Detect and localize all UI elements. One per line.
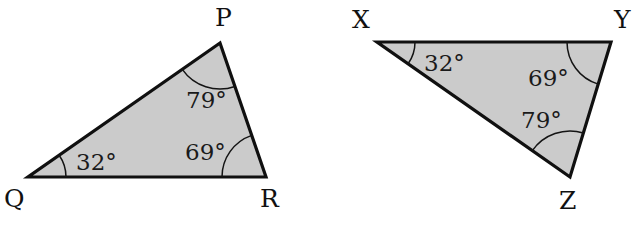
triangle-xyz-shape: [377, 42, 611, 177]
triangle-pqr: 79° 32° 69° P Q R: [4, 3, 280, 213]
vertex-label-p: P: [215, 3, 232, 32]
angle-label-z: 79°: [521, 107, 562, 133]
angle-label-q: 32°: [76, 149, 117, 175]
triangle-xyz: 32° 69° 79° X Y Z: [352, 5, 631, 215]
figure-canvas: 79° 32° 69° P Q R 32° 69° 79° X Y Z: [0, 0, 638, 225]
vertex-label-q: Q: [4, 184, 25, 213]
geometry-figure: 79° 32° 69° P Q R 32° 69° 79° X Y Z: [0, 0, 638, 225]
angle-label-r: 69°: [185, 139, 226, 165]
vertex-label-z: Z: [559, 186, 576, 215]
angle-label-p: 79°: [186, 87, 227, 113]
angle-label-y: 69°: [528, 65, 569, 91]
vertex-label-x: X: [352, 5, 370, 34]
vertex-label-y: Y: [613, 5, 631, 34]
angle-label-x: 32°: [424, 50, 465, 76]
triangle-pqr-shape: [28, 43, 266, 177]
vertex-label-r: R: [260, 184, 280, 213]
